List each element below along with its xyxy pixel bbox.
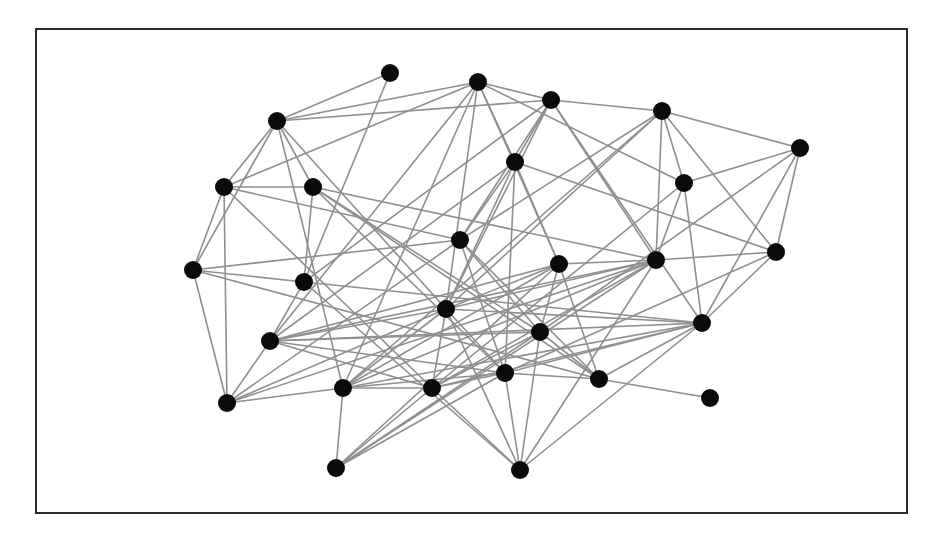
- graph-edge-B-Q: [224, 187, 227, 403]
- network-graph: [0, 0, 947, 539]
- graph-edge-O-P: [270, 282, 304, 341]
- graph-node-M: [767, 243, 785, 261]
- graph-edge-B-H: [224, 187, 460, 240]
- graph-node-L: [647, 251, 665, 269]
- graph-edge-S-V: [432, 309, 446, 388]
- graph-edge-F-I: [551, 100, 662, 111]
- graph-node-U: [496, 364, 514, 382]
- graph-edge-J-Z: [684, 183, 702, 323]
- graph-edge-I-K: [662, 111, 800, 148]
- graph-edge-T-V: [432, 332, 540, 388]
- graph-node-Z: [693, 314, 711, 332]
- graph-node-E: [469, 73, 487, 91]
- graph-node-BB: [327, 459, 345, 477]
- graph-edge-A-B: [224, 121, 277, 187]
- graph-edge-I-R: [343, 111, 662, 388]
- graph-node-F: [542, 91, 560, 109]
- graph-edge-E-B: [224, 82, 478, 187]
- graph-edge-R-Y: [343, 264, 559, 388]
- graph-edge-L-M: [656, 252, 776, 260]
- graph-node-O: [295, 273, 313, 291]
- graph-node-N: [184, 261, 202, 279]
- graph-edge-K-M: [776, 148, 800, 252]
- graph-edge-L-X: [520, 260, 656, 470]
- graph-node-C: [304, 178, 322, 196]
- graph-edge-B-N: [193, 187, 224, 270]
- graph-node-A: [268, 112, 286, 130]
- graph-node-Y: [550, 255, 568, 273]
- graph-node-K: [791, 139, 809, 157]
- graph-edge-I-L: [656, 111, 662, 260]
- graph-edge-V-X: [432, 388, 520, 470]
- graph-node-J: [675, 174, 693, 192]
- graph-edge-T-X: [520, 332, 540, 470]
- graph-node-X: [511, 461, 529, 479]
- graph-node-AA: [701, 389, 719, 407]
- graph-edge-R-BB: [336, 388, 343, 468]
- graph-edge-E-F: [478, 82, 551, 100]
- graph-node-Q: [218, 394, 236, 412]
- graph-edge-K-Z: [702, 148, 800, 323]
- graph-node-S: [437, 300, 455, 318]
- graph-node-W: [590, 370, 608, 388]
- graph-node-R: [334, 379, 352, 397]
- graph-nodes: [184, 64, 809, 479]
- graph-node-T: [531, 323, 549, 341]
- graph-edge-M-Z: [702, 252, 776, 323]
- graph-edge-I-J: [662, 111, 684, 183]
- graph-edge-W-AA: [599, 379, 710, 398]
- graph-edge-N-Q: [193, 270, 227, 403]
- graph-edge-S-Z: [446, 309, 702, 323]
- graph-node-B: [215, 178, 233, 196]
- graph-node-H: [451, 231, 469, 249]
- graph-edge-G-Y: [515, 162, 559, 264]
- graph-node-G: [506, 153, 524, 171]
- graph-edges: [193, 73, 800, 470]
- graph-node-D: [381, 64, 399, 82]
- graph-edge-R-S: [343, 309, 446, 388]
- graph-edge-V-BB: [336, 388, 432, 468]
- graph-edge-H-I: [460, 111, 662, 240]
- graph-node-V: [423, 379, 441, 397]
- graph-edge-W-Z: [599, 323, 702, 379]
- graph-edge-N-O: [193, 270, 304, 282]
- graph-node-I: [653, 102, 671, 120]
- graph-node-P: [261, 332, 279, 350]
